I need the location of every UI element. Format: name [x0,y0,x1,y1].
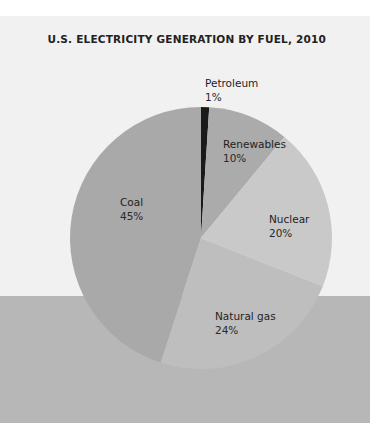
label-nuclear: Nuclear 20% [269,212,309,240]
label-petroleum: Petroleum 1% [205,76,258,104]
label-natural-gas: Natural gas 24% [215,309,276,337]
label-renewables: Renewables 10% [223,137,286,165]
pie-chart [0,0,382,426]
label-coal: Coal 45% [120,195,143,223]
